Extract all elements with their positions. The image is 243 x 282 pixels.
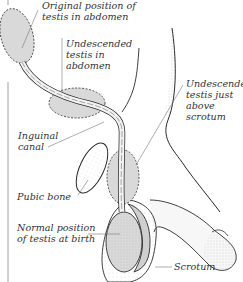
label-inguinal-canal: Inguinal canal	[18, 130, 58, 152]
testis-original-position	[0, 5, 40, 67]
label-undescended-above-scrotum: Undescended testis just above scrotum	[186, 78, 243, 122]
label-pubic-bone: Pubic bone	[17, 191, 71, 202]
label-undescended-abdomen: Undescended testis in abdomen	[66, 38, 132, 71]
testis-descent-diagram: Original position of testis in abdomen U…	[0, 0, 243, 282]
label-normal-position: Normal position of testis at birth	[17, 222, 95, 244]
label-original-position: Original position of testis in abdomen	[42, 0, 136, 22]
label-scrotum: Scrotum	[174, 261, 215, 272]
